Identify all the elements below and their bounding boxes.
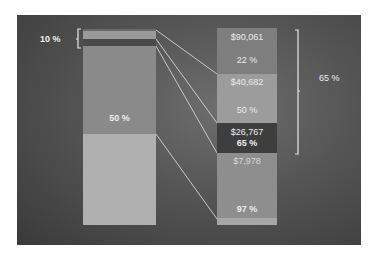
left-seg-dark <box>83 39 156 46</box>
right-bracket-icon <box>295 30 300 154</box>
right-bar: $90,061 22 % $40,682 50 % $26,767 65 % $… <box>217 28 277 225</box>
right-seg-2-value: $40,682 <box>217 77 277 87</box>
left-seg-light <box>83 31 156 39</box>
right-seg-1-pct: 22 % <box>217 55 277 65</box>
right-seg-3-pct: 65 % <box>217 138 277 148</box>
right-seg-4-value: $7,978 <box>217 156 277 166</box>
right-seg-1-value: $90,061 <box>217 32 277 42</box>
right-seg-2: $40,682 50 % <box>217 74 277 123</box>
left-seg-mid: 50 % <box>83 46 156 134</box>
left-bar: 50 % <box>83 29 156 225</box>
left-seg-base <box>83 134 156 225</box>
right-seg-5 <box>217 218 277 225</box>
right-seg-4: $7,978 97 % <box>217 153 277 218</box>
right-seg-4-pct: 97 % <box>217 204 277 214</box>
left-bracket-label: 10 % <box>40 34 61 44</box>
right-bracket-label: 65 % <box>319 73 340 83</box>
right-seg-2-pct: 50 % <box>217 105 277 115</box>
right-seg-3-value: $26,767 <box>217 127 277 137</box>
right-seg-3: $26,767 65 % <box>217 123 277 153</box>
right-seg-1: $90,061 22 % <box>217 28 277 74</box>
left-mid-label: 50 % <box>83 113 156 123</box>
left-bracket-icon <box>76 29 81 48</box>
